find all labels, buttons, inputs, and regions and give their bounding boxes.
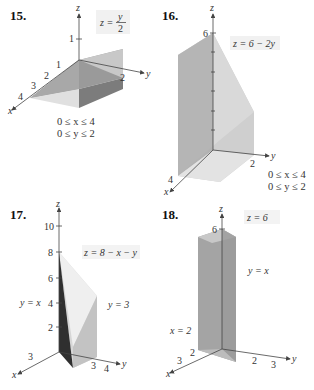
condition: 0 ≤ x ≤ 4 — [57, 116, 96, 127]
plane-label-y-eq-3: y = 3 — [107, 299, 129, 310]
figure-15: 15. z 1 x 1 2 3 4 y 2 z = y 2 0 ≤ x ≤ 4 … — [7, 2, 151, 139]
y-tick-label: 2 — [250, 158, 255, 169]
figure-18: 18. z 6 x 2 3 y 2 3 z = 6 y = x x = 2 — [162, 203, 297, 379]
z-axis-label: z — [209, 2, 214, 13]
figure-number: 18. — [162, 207, 178, 222]
side-face — [222, 229, 236, 362]
x-tick-label: 1 — [56, 59, 61, 70]
z-tick-label: 2 — [48, 322, 53, 333]
plane-label-y-eq-x: y = x — [19, 297, 41, 308]
figure-number: 17. — [10, 207, 26, 222]
z-tick-label: 10 — [44, 221, 54, 232]
y-tick-label: 3 — [91, 360, 96, 371]
condition: 0 ≤ y ≤ 2 — [57, 128, 95, 139]
y-axis-label: y — [270, 150, 276, 161]
z-tick-label: 6 — [48, 273, 53, 284]
plane-label-y-eq-x: y = x — [247, 265, 269, 276]
z-tick-label: 6 — [203, 28, 208, 39]
z-tick-label: 6 — [212, 224, 217, 235]
plane-label-x-eq-2: x = 2 — [169, 325, 191, 336]
condition: 0 ≤ y ≤ 2 — [268, 181, 306, 192]
x-axis — [18, 352, 59, 374]
equation-label: z = 8 − x − y — [83, 247, 138, 258]
x-tick-label: 3 — [177, 355, 182, 366]
figure-17: 17. z 10 8 6 4 2 x 3 y 3 4 z = 8 − x − y… — [10, 198, 140, 380]
equation-numerator: y — [117, 11, 123, 22]
condition: 0 ≤ x ≤ 4 — [268, 169, 307, 180]
x-tick-label: 4 — [168, 174, 173, 185]
x-axis-label: x — [11, 369, 17, 380]
equation-lhs: z = — [99, 17, 113, 28]
z-axis-label: z — [75, 2, 80, 13]
x-axis-label: x — [165, 368, 171, 379]
equation-label: z = 6 — [246, 212, 268, 223]
y-tick-label: 2 — [120, 72, 125, 83]
z-tick-label: 4 — [48, 298, 53, 309]
z-tick-label: 8 — [48, 247, 53, 258]
x-tick-label: 3 — [28, 351, 33, 362]
x-axis-label: x — [7, 105, 13, 116]
x-tick-label: 2 — [190, 347, 195, 358]
y-axis-label: y — [121, 358, 127, 369]
y-tick-label: 4 — [104, 363, 109, 374]
y-tick-label: 3 — [271, 359, 276, 370]
z-tick-label: 1 — [69, 33, 74, 44]
figure-16: 16. z 6 x 4 y 2 z = 6 − 2y 0 ≤ x ≤ 4 0 ≤… — [162, 2, 307, 197]
figure-number: 15. — [10, 8, 26, 23]
z-axis-label: z — [55, 198, 60, 209]
x-tick-label: 2 — [44, 70, 49, 81]
figure-number: 16. — [162, 8, 178, 23]
y-tick-label: 2 — [252, 355, 257, 366]
equation-label: z = 6 − 2y — [232, 38, 275, 49]
x-axis-label: x — [163, 186, 169, 197]
y-axis-label: y — [145, 68, 151, 79]
x-tick-label: 4 — [18, 91, 23, 102]
equation-denominator: 2 — [118, 23, 123, 34]
x-tick-label: 3 — [31, 80, 36, 91]
z-axis-label: z — [218, 203, 223, 214]
y-axis-label: y — [291, 353, 297, 364]
